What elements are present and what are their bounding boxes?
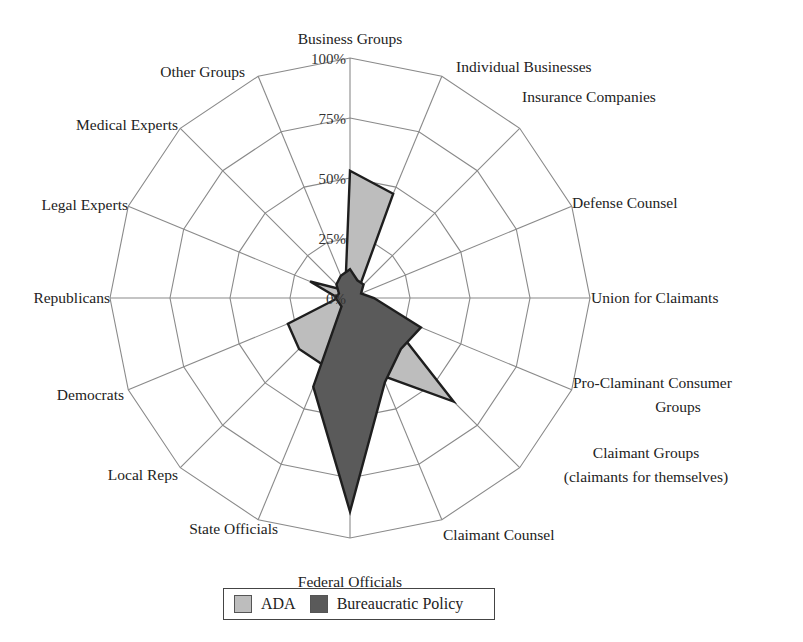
radial-tick-label: 75% [319, 111, 347, 127]
axis-label: Legal Experts [41, 196, 128, 213]
axis-label: Union for Claimants [591, 289, 718, 306]
axis-label: Other Groups [160, 63, 245, 80]
axis-label: Pro-Claminant Consumer [573, 374, 733, 391]
radar-series [288, 171, 454, 512]
axis-label: Business Groups [298, 30, 403, 47]
legend-label-bureaucratic-policy: Bureaucratic Policy [337, 595, 464, 613]
radial-tick-labels: 0%25%50%75%100% [311, 51, 346, 307]
grid-spoke [258, 76, 350, 298]
ada-swatch-icon [234, 595, 252, 613]
radial-tick-label: 50% [319, 171, 347, 187]
axis-label: (claimants for themselves) [564, 468, 728, 486]
legend-label-ada: ADA [261, 595, 296, 613]
radial-tick-label: 100% [311, 51, 346, 67]
radar-chart: 0%25%50%75%100% Business GroupsIndividua… [0, 0, 803, 642]
axis-label: Medical Experts [76, 116, 178, 133]
axis-label: Individual Businesses [456, 58, 592, 75]
legend: ADA Bureaucratic Policy [223, 588, 495, 620]
axis-label: Defense Counsel [572, 194, 677, 211]
axis-label: Local Reps [108, 466, 178, 483]
axis-label: Groups [655, 398, 701, 415]
axis-label: Republicans [33, 289, 110, 306]
axis-label: State Officials [189, 520, 278, 537]
axis-label: Claimant Counsel [443, 526, 555, 543]
radial-tick-label: 25% [319, 231, 347, 247]
bureaucratic-policy-swatch-icon [310, 595, 328, 613]
legend-item-ada: ADA [234, 595, 296, 613]
axis-label: Claimant Groups [593, 444, 699, 461]
radial-tick-label: 0% [326, 291, 346, 307]
axis-label: Democrats [57, 386, 124, 403]
axis-label: Insurance Companies [522, 88, 656, 105]
grid-spoke [180, 128, 350, 298]
legend-item-bureaucratic-policy: Bureaucratic Policy [310, 595, 464, 613]
